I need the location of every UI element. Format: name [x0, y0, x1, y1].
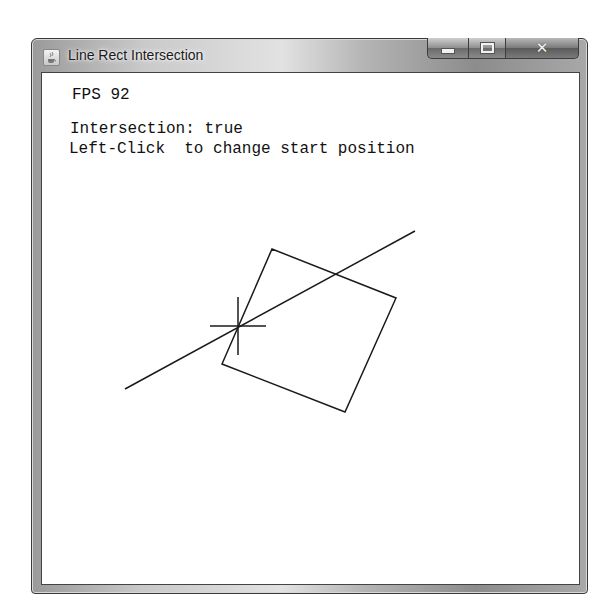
scene-graphics — [0, 0, 613, 614]
rotated-rectangle — [222, 249, 396, 412]
